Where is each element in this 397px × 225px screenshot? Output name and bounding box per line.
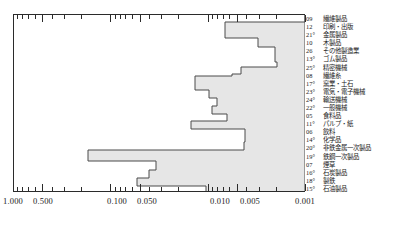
x-tick-major: [237, 15, 238, 22]
x-tick-major: [13, 15, 14, 22]
category-code: 19°: [306, 153, 323, 160]
x-tick-major: [42, 15, 43, 22]
chart-title: [0, 0, 397, 4]
x-tick-minor: [132, 15, 133, 19]
x-tick-minor: [81, 187, 82, 191]
x-tick-major: [110, 184, 111, 191]
x-tick-major: [140, 15, 141, 22]
x-tick-minor: [259, 187, 260, 191]
x-tick-minor: [64, 15, 65, 19]
category-code: 11°: [306, 120, 323, 127]
category-code: 22°: [306, 104, 323, 111]
x-tick-minor: [246, 15, 247, 19]
x-tick-minor: [229, 187, 230, 191]
step-series: [13, 14, 305, 192]
x-tick-minor: [276, 187, 277, 191]
category-code: 14°: [306, 136, 323, 143]
x-tick-minor: [212, 187, 213, 191]
x-tick-minor: [17, 187, 18, 191]
x-tick-minor: [212, 15, 213, 19]
x-axis-top-line: [13, 14, 305, 15]
x-axis-label-4: 0.010: [210, 196, 230, 206]
category-code: 13°: [306, 55, 323, 62]
x-axis-tick-labels: 1.0000.5000.1000.0500.0100.0050.001: [0, 196, 397, 210]
x-axis-bottom-line: [13, 191, 305, 192]
chart-figure: 1.0000.5000.1000.0500.0100.0050.001 09繊維…: [0, 0, 397, 225]
x-axis-label-5: 0.005: [240, 196, 260, 206]
x-tick-minor: [223, 187, 224, 191]
category-code: 06: [306, 128, 323, 135]
x-axis-label-2: 0.100: [107, 196, 127, 206]
category-code: 23°: [306, 88, 323, 95]
x-tick-minor: [132, 187, 133, 191]
x-tick-minor: [223, 15, 224, 19]
x-tick-minor: [246, 187, 247, 191]
x-tick-minor: [22, 187, 23, 191]
category-code: 20°: [306, 144, 323, 151]
x-tick-major: [237, 184, 238, 191]
x-axis-label-0: 1.000: [3, 196, 23, 206]
x-tick-minor: [276, 15, 277, 19]
x-tick-minor: [115, 187, 116, 191]
x-axis-label-6: 0.001: [295, 196, 315, 206]
x-tick-minor: [64, 187, 65, 191]
category-code: 24°: [306, 96, 323, 103]
x-tick-minor: [178, 187, 179, 191]
category-row: 15°石油製品: [306, 185, 347, 193]
category-code: 10: [306, 39, 323, 46]
x-tick-minor: [28, 187, 29, 191]
x-tick-minor: [115, 15, 116, 19]
step-polygon: [88, 14, 305, 192]
x-tick-minor: [28, 15, 29, 19]
x-tick-minor: [17, 15, 18, 19]
x-tick-minor: [81, 15, 82, 19]
category-code: 12: [306, 23, 323, 30]
x-tick-minor: [259, 15, 260, 19]
x-tick-minor: [149, 187, 150, 191]
x-tick-major: [13, 184, 14, 191]
x-tick-minor: [125, 187, 126, 191]
category-code: 05: [306, 112, 323, 119]
x-tick-major: [140, 184, 141, 191]
x-tick-major: [208, 184, 209, 191]
x-tick-minor: [52, 187, 53, 191]
category-code: 17°: [306, 80, 323, 87]
x-axis-label-3: 0.050: [137, 196, 157, 206]
category-code: 08: [306, 72, 323, 79]
x-tick-minor: [120, 15, 121, 19]
category-code: 26: [306, 47, 323, 54]
x-tick-major: [208, 15, 209, 22]
x-tick-minor: [35, 187, 36, 191]
category-code: 25°: [306, 64, 323, 71]
x-tick-minor: [161, 187, 162, 191]
x-tick-minor: [217, 15, 218, 19]
category-label-list: 09繊維製品12印刷・出版21°金属製品10木製品26その他製造業13°ゴム製品…: [306, 14, 397, 192]
x-tick-minor: [229, 15, 230, 19]
x-tick-minor: [125, 15, 126, 19]
category-name: 石油製品: [323, 184, 347, 193]
category-code: 09: [306, 15, 323, 22]
category-code: 18°: [306, 177, 323, 184]
x-tick-minor: [35, 15, 36, 19]
x-tick-minor: [149, 15, 150, 19]
category-code: 15°: [306, 185, 323, 192]
x-tick-minor: [120, 187, 121, 191]
category-code: 16°: [306, 169, 323, 176]
x-tick-minor: [52, 15, 53, 19]
x-tick-minor: [217, 187, 218, 191]
x-tick-minor: [22, 15, 23, 19]
x-tick-major: [42, 184, 43, 191]
x-tick-major: [110, 15, 111, 22]
x-tick-minor: [178, 15, 179, 19]
category-code: 21°: [306, 31, 323, 38]
y-axis-line: [13, 14, 14, 192]
category-code: 07: [306, 161, 323, 168]
x-tick-minor: [161, 15, 162, 19]
x-axis-label-1: 0.500: [33, 196, 53, 206]
plot-area: [13, 14, 305, 192]
